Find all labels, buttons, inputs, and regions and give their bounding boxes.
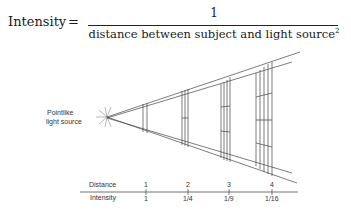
panel-distance-4: [256, 62, 272, 176]
intensity-tick-1: 1: [144, 195, 148, 202]
intensity-tick-3: 1/9: [224, 195, 234, 202]
light-spread-diagram: Pointlike light source Distance Intensit…: [0, 0, 351, 214]
distance-tick-1: 1: [144, 181, 148, 188]
distance-tick-2: 2: [186, 181, 190, 188]
intensity-tick-2: 1/4: [183, 195, 193, 202]
panel-distance-1: [143, 103, 147, 133]
intensity-axis-label: Intensity: [90, 194, 117, 202]
light-source-icon: [96, 107, 111, 127]
distance-axis-label: Distance: [89, 181, 116, 188]
distance-tick-4: 4: [270, 181, 274, 188]
source-label-line1: Pointlike: [47, 109, 74, 116]
intensity-tick-4: 1/16: [265, 195, 279, 202]
source-label-line2: light source: [46, 118, 82, 126]
distance-tick-3: 3: [227, 181, 231, 188]
panel-distance-2: [182, 89, 188, 147]
panel-distance-3: [221, 77, 230, 162]
